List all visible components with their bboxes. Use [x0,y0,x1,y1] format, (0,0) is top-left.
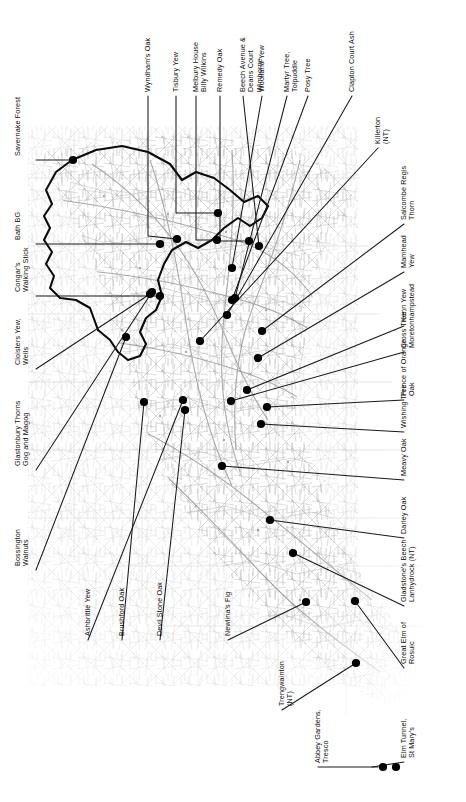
map-marker-bath-bg[interactable] [156,240,164,248]
map-marker-mamhead-yew[interactable] [254,354,262,362]
map-label-line: Wyndham's Oak [144,38,152,92]
map-marker-darley-oak[interactable] [266,516,274,524]
map-marker-kenn-yew[interactable] [243,386,251,394]
map-label-line: Thorn [408,166,416,220]
leader-line-remedy-oak [220,96,249,241]
map-label-newlinas-fig: Newlina's Fig [224,592,232,636]
map-label-line: Woolland Yew [258,45,266,92]
leader-line-wyndhams-oak [148,96,177,239]
map-label-line: Bath BG [14,212,22,240]
map-label-line: (NT) [382,117,390,144]
map-label-line: Lanhydrock (NT) [408,539,416,602]
leader-line-tisbury-yew [176,96,218,213]
map-marker-posy-tree[interactable] [228,296,236,304]
map-label-martyr-tree: Martyr Tree,Tolpuddle [283,52,300,92]
map-marker-newlinas-fig[interactable] [302,598,310,606]
map-marker-congars-walking-stick[interactable] [156,292,164,300]
map-label-tisbury-yew: Tisbury Yew [172,52,180,92]
map-marker-bossington-walnuts[interactable] [122,333,130,341]
map-marker-beech-avenue[interactable] [255,242,263,250]
map-label-line: Wishing Tree [400,384,408,428]
map-label-woolland-yew: Woolland Yew [258,45,266,92]
map-label-line: Billy Wilkins [200,42,208,92]
map-label-brushford-oak: Brushford Oak [118,588,126,636]
map-marker-woolland-yew[interactable] [228,264,236,272]
map-marker-wyndhams-oak[interactable] [173,235,181,243]
map-marker-salcombe-regis[interactable] [258,327,266,335]
map-label-ashbrittle-yew: Ashbrittle Yew [84,589,92,636]
map-marker-great-elm-rosuic[interactable] [351,597,359,605]
map-label-line: Tisbury Yew [172,52,180,92]
map-label-devil-stone-oak: Devil Stone Oak [156,582,164,636]
map-marker-glastonbury-thorns[interactable] [148,288,156,296]
map-label-line: Rosuic [408,622,416,664]
map-label-line: Remedy Oak [216,49,224,92]
map-label-line: Meavy Oak [400,438,408,476]
map-label-elm-tunnel: Elm Tunnel,St Mary's [400,718,417,758]
map-label-wishing-tree: Wishing Tree [400,384,408,428]
map-label-darley-oak: Darley Oak [400,497,408,534]
leader-line-salcombe-regis [262,224,404,331]
map-label-gladstones-beech: Gladstone's BeechLanhydrock (NT) [400,539,417,602]
map-label-line: (NT) [286,661,294,706]
map-label-congars-walking-stick: Congar'sWalking Stick [14,247,31,292]
map-label-line: Clapton Court Ash [348,31,356,92]
map-label-abbey-gardens: Abbey Gardens,Tresco [314,709,331,763]
map-marker-savernake-forest[interactable] [69,156,77,164]
leader-line-meavy-oak [222,466,404,480]
leader-line-clapton-court-ash [227,96,352,315]
leader-lines-and-markers [0,0,466,802]
map-label-line: Moretonhampstead [408,284,416,348]
map-label-line: Tolpuddle [291,52,299,92]
map-label-line: Posy Tree [304,58,312,92]
leader-line-wishing-tree [261,424,404,432]
leader-line-newlinas-fig [228,602,306,640]
map-label-line: Ashbrittle Yew [84,589,92,636]
leader-line-kenn-yew [247,326,404,390]
map-label-line: Wells [22,318,30,365]
map-label-line: Darley Oak [400,497,408,534]
leader-line-mamhead-yew [258,272,404,358]
map-marker-elm-tunnel[interactable] [392,763,400,771]
map-label-line: Gog and Magog [22,400,30,466]
map-marker-tisbury-yew[interactable] [214,209,222,217]
map-marker-ashbrittle-yew[interactable] [179,396,187,404]
map-label-great-elm-rosuic: Great Elm ofRosuic [400,622,417,664]
map-label-melbury-house: Melbury HouseBilly Wilkins [192,42,209,92]
map-label-line: Yew [408,235,416,268]
map-label-posy-tree: Posy Tree [304,58,312,92]
map-marker-brushford-oak[interactable] [140,398,148,406]
map-marker-remedy-oak[interactable] [245,237,253,245]
leader-line-melbury-house [196,96,217,240]
map-marker-devil-stone-oak[interactable] [181,406,189,414]
map-label-line: Devil Stone Oak [156,582,164,636]
map-label-glastonbury-thorns: Glastonbury ThornsGog and Magog [14,400,31,466]
map-label-wyndhams-oak: Wyndham's Oak [144,38,152,92]
map-marker-killerton[interactable] [196,337,204,345]
map-marker-melbury-house[interactable] [213,236,221,244]
map-marker-trengwainton[interactable] [352,659,360,667]
map-marker-gladstones-beech[interactable] [289,549,297,557]
map-label-trengwainton: Trengwainton(NT) [278,661,295,706]
map-marker-abbey-gardens[interactable] [379,763,387,771]
leader-line-ashbrittle-yew [88,400,183,640]
leader-line-glastonbury-thorns [36,292,152,470]
map-label-line: Brushford Oak [118,588,126,636]
map-marker-prince-of-orange[interactable] [263,403,271,411]
map-marker-clapton-court-ash[interactable] [223,311,231,319]
leader-line-beech-avenue [243,96,259,246]
leader-line-darley-oak [270,520,404,538]
map-label-killerton: Killerton(NT) [374,117,391,144]
map-label-savernake-forest: Savernake Forest [14,97,22,156]
map-marker-wishing-tree[interactable] [257,420,265,428]
map-label-line: Walking Stick [22,247,30,292]
map-marker-cross-tree[interactable] [227,397,235,405]
leader-line-bossington-walnuts [36,337,126,570]
leader-line-gladstones-beech [293,553,404,606]
map-label-bossington-walnuts: BossingtonWalnuts [14,529,31,566]
map-label-line: Newlina's Fig [224,592,232,636]
map-label-bath-bg: Bath BG [14,212,22,240]
map-marker-meavy-oak[interactable] [218,462,226,470]
leader-line-cloisters-yew [36,294,150,369]
map-label-clapton-court-ash: Clapton Court Ash [348,31,356,92]
